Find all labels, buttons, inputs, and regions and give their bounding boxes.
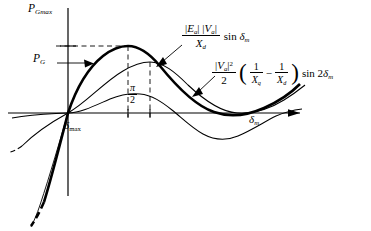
inner-left-denominator: Xq — [250, 74, 263, 85]
formula2-denominator: 2 — [212, 74, 236, 86]
formula-fundamental-power: |Ea| |Va| Xd sin δm — [182, 22, 249, 50]
Xq-subscript: q — [258, 79, 261, 86]
sin-text-1: sin — [224, 30, 237, 42]
delta-max-subscript: max — [69, 125, 81, 132]
Va-subscript: a — [211, 28, 214, 35]
delta-subscript-2: m — [328, 73, 333, 80]
inner-left-numerator: 1 — [250, 61, 263, 72]
open-paren: ( — [239, 65, 247, 82]
Xd-symbol-1: X — [196, 37, 203, 49]
inner-right-denominator: Xd — [275, 74, 288, 85]
formula1-leader-line — [162, 45, 182, 62]
Xd-subscript-2: d — [283, 79, 286, 86]
pi-half-label: π 2 — [128, 83, 137, 105]
inner-right-numerator: 1 — [275, 61, 288, 72]
total-power-curve-label: PG — [33, 52, 45, 64]
formula1-trailing: sin δm — [224, 30, 250, 42]
formula2-inner-left-fraction: 1 Xq — [250, 61, 263, 85]
Xd-subscript-1: d — [203, 43, 206, 50]
fundamental-curve-extension — [10, 146, 22, 152]
y-axis-label-subscript: Gmax — [35, 8, 52, 16]
y-axis-label: PGmax — [28, 2, 52, 14]
pi-half-denominator: 2 — [128, 95, 137, 105]
formula1-fraction: |Ea| |Va| Xd — [182, 22, 220, 50]
bar-right-1: | — [197, 22, 199, 34]
delta-max-label: δmax — [64, 119, 81, 131]
pi-half-numerator: π — [128, 83, 137, 93]
Va-subscript-2: a — [224, 65, 227, 72]
Xq-symbol: X — [252, 74, 258, 85]
formula2-numerator: |Va|2 — [212, 59, 236, 71]
formula2-trailing: sin 2δm — [302, 67, 333, 79]
formula2-fraction: |Va|2 2 — [212, 59, 236, 87]
power-angle-diagram: PGmax PG δmax δm π 2 |Ea| |Va| Xd sin δm — [0, 0, 371, 231]
y-axis-label-symbol: P — [28, 2, 35, 14]
Ea-subscript: a — [194, 28, 197, 35]
sin-text-2: sin — [302, 67, 315, 79]
x-axis-label: δm — [249, 113, 259, 125]
formula-reluctance-power: |Va|2 2 ( 1 Xq − 1 Xd ) sin 2δm — [212, 59, 333, 87]
delta-symbol-1: δ — [239, 30, 244, 42]
Ea-symbol: E — [187, 22, 194, 34]
formula1-numerator: |Ea| |Va| — [182, 22, 220, 34]
pg-subscript: G — [40, 58, 45, 66]
formula2-inner-right-fraction: 1 Xd — [275, 61, 288, 85]
formula1-denominator: Xd — [182, 37, 220, 49]
x-axis-label-subscript: m — [254, 119, 259, 126]
close-paren: ) — [291, 65, 299, 82]
delta-subscript-1: m — [245, 36, 250, 43]
formula1-fraction-bar — [182, 35, 220, 36]
inner-minus-operator: − — [266, 67, 272, 79]
Va-symbol-2: V — [217, 59, 224, 71]
va-exponent: 2 — [230, 60, 233, 67]
formula2-fraction-bar — [212, 72, 236, 73]
pg-symbol: P — [33, 52, 40, 64]
